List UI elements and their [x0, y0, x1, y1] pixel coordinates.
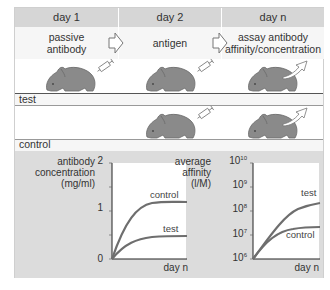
y-tick: 108 [223, 203, 247, 214]
day-2-header: day 2 [119, 8, 221, 27]
step-passive-antibody: passiveantibody [15, 27, 118, 59]
test-curve-label: test [163, 223, 178, 234]
x-axis-label: day n [152, 262, 188, 273]
y-tick: 0 [95, 253, 103, 264]
experiment-diagram: day 1 day 2 day n passiveantibody antige… [14, 7, 324, 278]
divider [15, 105, 323, 106]
step-antigen: antigen [119, 27, 221, 59]
step-text-line2: affinity/concentration [225, 43, 321, 55]
syringe-icon [195, 105, 217, 121]
y-tick: 109 [223, 179, 247, 190]
y-tick: 1010 [223, 155, 247, 166]
y-tick: 1 [95, 202, 103, 213]
syringe-icon [195, 58, 217, 74]
curved-arrow-icon [281, 58, 311, 80]
ylabel-line3: (l/M) [165, 178, 211, 189]
syringe-icon [95, 58, 117, 74]
ylabel-line2: concentration [17, 167, 95, 178]
test-label-band [15, 94, 323, 105]
rabbit-icon [43, 64, 101, 94]
x-axis-label: day n [283, 262, 319, 273]
y-tick: 2 [95, 155, 103, 166]
control-label-band [15, 140, 323, 151]
ylabel-line1: average [165, 156, 211, 167]
y-tick: 107 [223, 228, 247, 239]
concentration-axis-label: antibody concentration (mg/ml) [17, 156, 95, 189]
control-curve-label: control [286, 229, 315, 240]
step-text-line1: passive [49, 31, 85, 43]
control-curve-label: control [150, 189, 179, 200]
rabbit-icon [143, 111, 201, 141]
step-text-line1: antigen [153, 37, 187, 49]
affinity-chart [248, 161, 320, 263]
test-curve-label: test [301, 187, 316, 198]
day-n-header: day n [222, 8, 324, 27]
day-1-header: day 1 [15, 8, 118, 27]
ylabel-line2: affinity [165, 167, 211, 178]
curved-arrow-icon [281, 105, 311, 127]
hollow-right-arrow-icon [108, 32, 124, 54]
step-text-line2: antibody [47, 43, 87, 55]
ylabel-line3: (mg/ml) [17, 178, 95, 189]
hollow-right-arrow-icon [212, 32, 228, 54]
test-group-label: test [19, 93, 36, 105]
step-assay: assay antibodyaffinity/concentration [222, 27, 324, 59]
step-text-line1: assay antibody [238, 31, 308, 43]
ylabel-line1: antibody [17, 156, 95, 167]
affinity-axis-label: average affinity (l/M) [165, 156, 211, 189]
control-group-label: control [19, 138, 51, 150]
graphs-panel: antibody concentration (mg/ml) 2 1 0 con… [15, 151, 323, 278]
rabbit-icon [143, 64, 201, 94]
y-tick: 106 [223, 252, 247, 263]
